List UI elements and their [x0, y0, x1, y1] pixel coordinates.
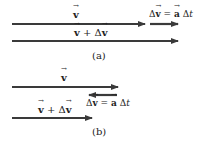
velocity-label-a: v	[73, 10, 79, 20]
vector-diagram	[0, 0, 197, 143]
delta-v-label-b: Δv = a Δt	[86, 99, 130, 108]
caption-a: (a)	[92, 51, 106, 61]
caption-b: (b)	[92, 127, 106, 137]
velocity-label-b: v	[61, 73, 67, 83]
resultant-label-a: v + Δv	[74, 28, 108, 38]
delta-v-label-a: Δv = a Δt	[149, 10, 193, 19]
resultant-label-b: v + Δv	[38, 105, 72, 115]
